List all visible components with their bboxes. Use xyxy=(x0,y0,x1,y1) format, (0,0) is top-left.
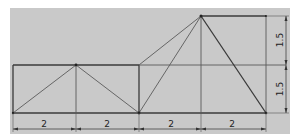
dimension-label-h2: 2 xyxy=(104,119,110,129)
node xyxy=(75,64,78,67)
dimension-label-v2: 1.5 xyxy=(275,82,285,96)
dimension-label-h3: 2 xyxy=(168,119,174,129)
truss-diagram: 2 2 2 2 1.5 1.5 xyxy=(0,0,300,138)
dimension-label-h4: 2 xyxy=(229,119,235,129)
node xyxy=(200,15,203,18)
dimension-label-h1: 2 xyxy=(41,119,47,129)
dimension-label-v1: 1.5 xyxy=(275,33,285,47)
diagram-background xyxy=(10,8,290,134)
